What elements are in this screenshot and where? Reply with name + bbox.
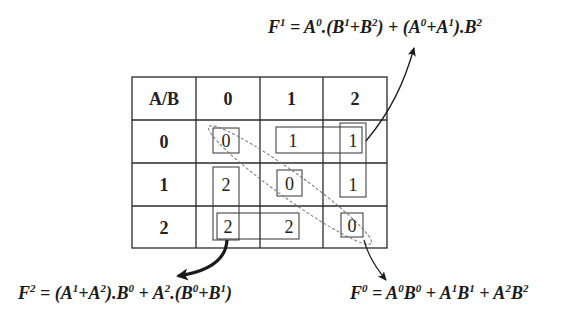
row-header-0: 0	[132, 133, 196, 151]
table-cell-r2c1: 2	[278, 218, 300, 236]
row-header-2: 2	[132, 219, 196, 237]
arrow-to-f2	[178, 240, 227, 276]
table-cell-r2c2: 0	[341, 217, 363, 235]
table-cell-r0c0: 0	[213, 132, 239, 150]
table-cell-r1c2: 1	[341, 176, 365, 194]
diagram-canvas	[0, 0, 585, 319]
arrow-to-f0	[364, 240, 386, 280]
column-header-0: 0	[196, 90, 260, 108]
table-cell-r2c0: 2	[217, 218, 239, 236]
table-cell-r0c2: 1	[342, 132, 364, 150]
table-cell-r1c0: 2	[213, 176, 239, 194]
formula-f0: F0 = A0B0 + A1B1 + A2B2	[350, 284, 528, 302]
column-header-2: 2	[323, 90, 387, 108]
column-header-1: 1	[260, 90, 323, 108]
table-corner-label: A/B	[132, 90, 196, 108]
row-header-1: 1	[132, 176, 196, 194]
formula-f1: F1 = A0.(B1+B2) + (A0+A1).B2	[268, 18, 482, 36]
formula-f2: F2 = (A1+A2).B0 + A2.(B0+B1)	[18, 284, 232, 302]
table-cell-r1c1: 0	[277, 175, 302, 193]
table-cell-r0c1: 1	[280, 132, 306, 150]
